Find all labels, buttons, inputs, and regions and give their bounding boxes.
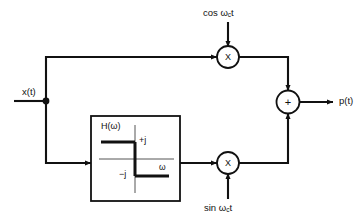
- filter-positive-j-label: +j: [139, 136, 146, 145]
- input-junction-dot: [43, 98, 50, 105]
- filter-transfer-function-label: H(ω): [101, 122, 121, 131]
- block-diagram-svg: [0, 0, 363, 220]
- wire-bottom-mult-to-adder: [239, 113, 288, 163]
- cos-carrier-suffix: t: [231, 7, 234, 18]
- sin-carrier-suffix: t: [229, 202, 232, 213]
- filter-negative-j-label: −j: [119, 170, 126, 179]
- summing-junction-glyph: +: [281, 96, 295, 108]
- cos-carrier-prefix: cos: [203, 7, 220, 18]
- sin-carrier-prefix: sin: [204, 202, 219, 213]
- wire-upper-branch: [46, 57, 217, 101]
- diagram-canvas: X X + x(t) p(t) cos ωct sin ωct H(ω) +j …: [0, 0, 363, 220]
- wire-lower-branch: [46, 101, 91, 163]
- cos-carrier-omega: ω: [220, 7, 227, 18]
- wire-top-mult-to-adder: [239, 57, 288, 91]
- filter-omega-axis-label: ω: [159, 163, 166, 172]
- sin-carrier-label: sin ωct: [204, 203, 232, 214]
- input-signal-label: x(t): [22, 87, 36, 97]
- top-multiplier-glyph: X: [221, 52, 235, 62]
- output-signal-label: p(t): [339, 96, 353, 106]
- cos-carrier-label: cos ωct: [203, 8, 234, 19]
- bottom-multiplier-glyph: X: [221, 158, 235, 168]
